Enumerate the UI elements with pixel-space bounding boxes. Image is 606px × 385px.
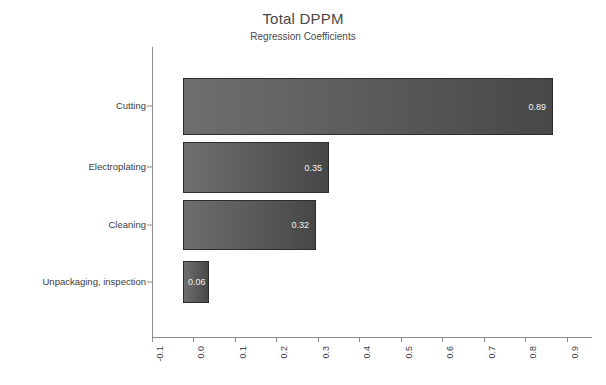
x-tick-mark-8: [484, 338, 485, 342]
x-axis-label-1: 0.0: [197, 346, 206, 359]
x-axis-label-0: -0.1: [156, 346, 165, 362]
x-axis-label-10: 0.9: [571, 346, 580, 359]
x-tick-mark-5: [359, 338, 360, 342]
x-tick-mark-0: [152, 338, 153, 342]
y-tick-mark-1: [147, 167, 152, 168]
x-axis-label-5: 0.4: [363, 346, 372, 359]
x-axis-label-6: 0.5: [405, 346, 414, 359]
bar-value-label-3: 0.06: [188, 278, 206, 287]
y-axis-line: [152, 47, 153, 338]
bar-unpackaging-inspection[interactable]: 0.06: [183, 261, 209, 303]
x-tick-mark-10: [567, 338, 568, 342]
x-tick-mark-9: [525, 338, 526, 342]
bar-cutting[interactable]: 0.89: [183, 78, 553, 135]
y-tick-mark-2: [147, 225, 152, 226]
y-axis-label-2: Cleaning: [109, 220, 147, 230]
x-tick-mark-2: [235, 338, 236, 342]
y-tick-mark-0: [147, 106, 152, 107]
x-axis-label-8: 0.7: [488, 346, 497, 359]
x-axis-label-9: 0.8: [529, 346, 538, 359]
x-axis-label-7: 0.6: [446, 346, 455, 359]
x-axis-line: [152, 337, 592, 338]
bar-cleaning[interactable]: 0.32: [183, 200, 316, 250]
y-axis-label-0: Cutting: [116, 101, 146, 111]
bar-electroplating[interactable]: 0.35: [183, 142, 329, 193]
bar-value-label-1: 0.35: [304, 163, 322, 172]
x-tick-mark-3: [276, 338, 277, 342]
x-tick-mark-7: [442, 338, 443, 342]
y-axis-label-3: Unpackaging, inspection: [42, 277, 146, 287]
chart-title: Total DPPM: [0, 10, 606, 27]
x-tick-mark-1: [193, 338, 194, 342]
chart-subtitle: Regression Coefficients: [0, 31, 606, 42]
x-axis-label-3: 0.2: [280, 346, 289, 359]
y-tick-mark-3: [147, 282, 152, 283]
x-tick-mark-4: [318, 338, 319, 342]
bar-value-label-0: 0.89: [528, 102, 546, 111]
x-axis-label-4: 0.3: [322, 346, 331, 359]
y-axis-label-1: Electroplating: [88, 162, 146, 172]
x-tick-mark-6: [401, 338, 402, 342]
x-axis-label-2: 0.1: [239, 346, 248, 359]
bar-value-label-2: 0.32: [291, 221, 309, 230]
bar-chart: Total DPPM Regression Coefficients Cutti…: [0, 0, 606, 385]
